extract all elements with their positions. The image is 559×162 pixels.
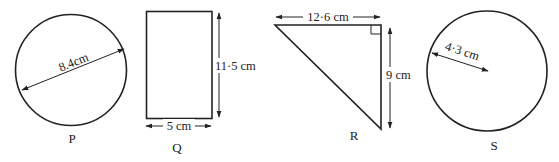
shape-name-q: Q — [172, 140, 182, 155]
radius-label: 4·3 cm — [443, 39, 481, 63]
triangle-r — [275, 25, 381, 129]
shape-name-r: R — [350, 128, 359, 143]
diameter-label: 8.4cm — [57, 50, 91, 75]
rectangle-q — [147, 12, 213, 119]
shape-s: 4·3 cm S — [427, 11, 547, 153]
right-angle-mark — [371, 25, 381, 34]
base-label: 12·6 cm — [307, 10, 349, 24]
shape-r: 12·6 cm 9 cm R — [275, 9, 415, 143]
width-label: 5 cm — [167, 119, 192, 133]
height-label: 11·5 cm — [215, 59, 256, 73]
shape-q: 11·5 cm 5 cm Q — [146, 12, 264, 156]
height-label: 9 cm — [386, 68, 411, 82]
shape-p: 8.4cm P — [16, 15, 127, 147]
shape-name-s: S — [490, 138, 497, 153]
shape-name-p: P — [68, 131, 75, 146]
shapes-diagram: 8.4cm P 11·5 cm 5 cm Q 12·6 cm 9 cm R — [0, 0, 559, 162]
